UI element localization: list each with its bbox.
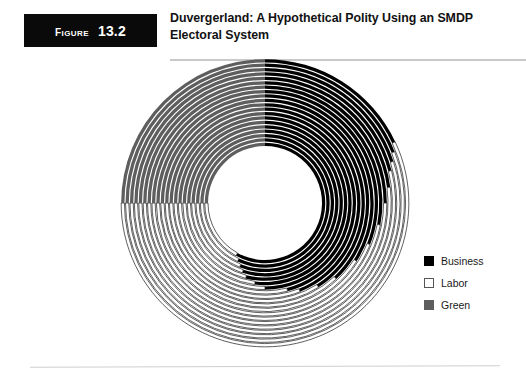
figure-number-tag: Figure 13.2 xyxy=(24,14,157,47)
legend-item-labor: Labor xyxy=(424,272,516,294)
legend-item-green: Green xyxy=(424,294,516,316)
chart-legend: Business Labor Green xyxy=(424,250,516,316)
legend-swatch-business xyxy=(424,256,434,266)
legend-label-green: Green xyxy=(441,300,470,311)
legend-swatch-green xyxy=(424,300,434,310)
legend-swatch-labor xyxy=(424,278,434,288)
ring-chart xyxy=(118,56,412,350)
figure-tag-number: 13.2 xyxy=(98,23,126,39)
figure-header: Figure 13.2 Duvergerland: A Hypothetical… xyxy=(24,10,502,54)
figure-tag-word: Figure xyxy=(55,23,89,39)
legend-item-business: Business xyxy=(424,250,516,272)
ring-chart-svg xyxy=(118,56,412,350)
figure-title: Duvergerland: A Hypothetical Polity Usin… xyxy=(170,10,500,43)
legend-label-business: Business xyxy=(441,256,484,267)
legend-label-labor: Labor xyxy=(441,278,468,289)
page-bottom-divider xyxy=(30,365,500,367)
